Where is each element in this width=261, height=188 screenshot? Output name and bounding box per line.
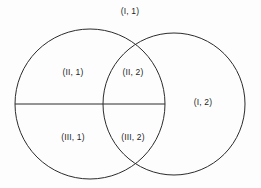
label-right-only: (I, 2) — [194, 98, 212, 107]
label-left-upper: (II, 1) — [63, 68, 84, 77]
label-lens-upper: (II, 2) — [123, 68, 144, 77]
venn-diagram-svg — [0, 0, 261, 188]
venn-diagram-figure: (I, 1) (II, 1) (II, 2) (III, 1) (III, 2)… — [0, 0, 261, 188]
label-lens-lower: (III, 2) — [121, 133, 144, 142]
label-left-lower: (III, 1) — [61, 133, 84, 142]
label-universe: (I, 1) — [121, 7, 139, 16]
